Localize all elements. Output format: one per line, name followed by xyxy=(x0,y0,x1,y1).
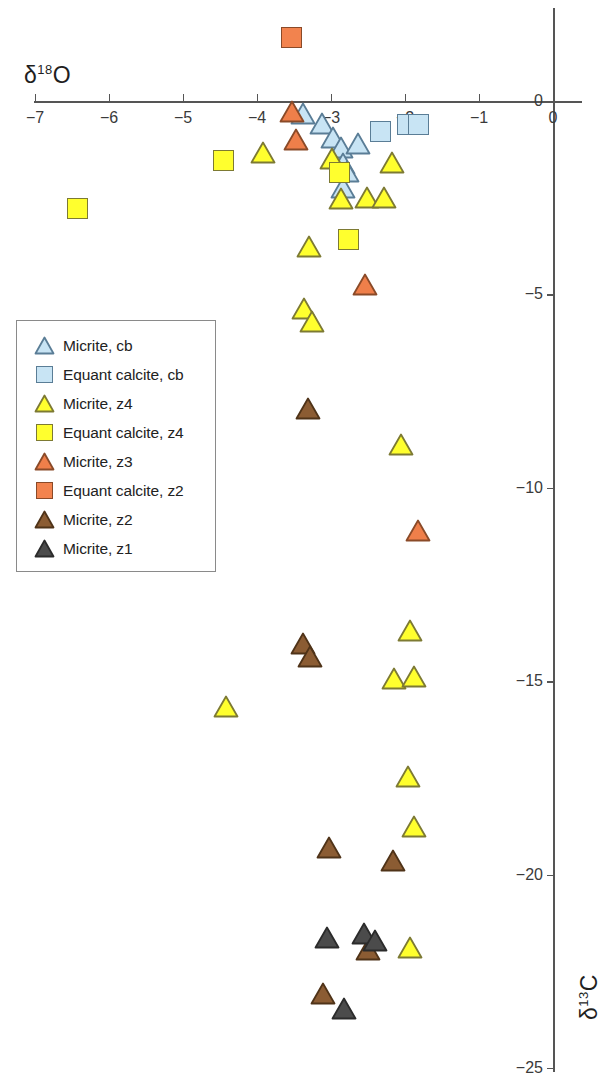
x-tick-mark xyxy=(257,94,258,102)
legend-symbol-square-icon xyxy=(31,482,57,499)
y-tick-label: −5 xyxy=(497,285,543,303)
y-axis-title-element: C xyxy=(576,974,602,991)
data-point-triangle xyxy=(295,397,321,420)
y-axis-title-superscript: 13 xyxy=(576,991,591,1006)
data-point-triangle xyxy=(395,765,421,788)
x-tick-label: 0 xyxy=(549,109,558,127)
data-point-triangle xyxy=(362,929,388,952)
legend-item-micrite-z1[interactable]: Micrite, z1 xyxy=(31,534,215,563)
data-point-triangle xyxy=(314,926,340,949)
data-point-square xyxy=(370,121,391,142)
legend-square-glyph xyxy=(36,482,53,499)
legend-square-glyph xyxy=(36,366,53,383)
data-point-triangle xyxy=(401,815,427,838)
data-point-triangle xyxy=(405,519,431,542)
data-point-triangle xyxy=(379,151,405,174)
x-tick-mark xyxy=(35,94,36,102)
data-point-triangle xyxy=(213,695,239,718)
legend-item-micrite-z3[interactable]: Micrite, z3 xyxy=(31,447,215,476)
legend-label: Equant calcite, z2 xyxy=(63,482,184,500)
y-tick-label: −20 xyxy=(497,866,543,884)
legend-item-equant-cb[interactable]: Equant calcite, cb xyxy=(31,360,215,389)
legend-item-equant-z2[interactable]: Equant calcite, z2 xyxy=(31,476,215,505)
x-tick-mark xyxy=(331,94,332,102)
y-tick-label: −15 xyxy=(497,672,543,690)
x-tick-label: −1 xyxy=(470,109,488,127)
legend-label: Micrite, z1 xyxy=(63,540,133,558)
legend-label: Micrite, cb xyxy=(63,337,133,355)
data-point-triangle xyxy=(296,235,322,258)
data-point-triangle xyxy=(352,273,378,296)
legend-symbol-triangle-icon xyxy=(31,539,57,558)
x-tick-label: −4 xyxy=(248,109,266,127)
data-point-square xyxy=(281,27,302,48)
legend-symbol-square-icon xyxy=(31,424,57,441)
y-tick-mark xyxy=(547,488,554,489)
y-axis-title-delta: δ xyxy=(576,1007,602,1020)
y-axis-title: δ13C xyxy=(576,974,602,1020)
legend: Micrite, cbEquant calcite, cbMicrite, z4… xyxy=(16,320,216,572)
legend-square-glyph xyxy=(36,424,53,441)
data-point-square xyxy=(329,162,350,183)
data-point-triangle xyxy=(331,997,357,1020)
legend-symbol-triangle-icon xyxy=(31,510,57,529)
legend-item-micrite-z2[interactable]: Micrite, z2 xyxy=(31,505,215,534)
y-tick-mark xyxy=(547,681,554,682)
legend-symbol-triangle-icon xyxy=(31,452,57,471)
data-point-triangle xyxy=(401,665,427,688)
x-tick-label: −5 xyxy=(174,109,192,127)
data-point-triangle xyxy=(299,310,325,333)
data-point-triangle xyxy=(283,128,309,151)
x-axis-title: δ18O xyxy=(24,62,71,89)
data-point-square xyxy=(338,229,359,250)
y-tick-mark xyxy=(547,875,554,876)
data-point-triangle xyxy=(380,849,406,872)
data-point-square xyxy=(67,198,88,219)
data-point-triangle xyxy=(250,141,276,164)
y-tick-label: 0 xyxy=(497,92,543,110)
data-point-triangle xyxy=(371,186,397,209)
data-point-triangle xyxy=(328,187,354,210)
x-tick-mark xyxy=(405,94,406,102)
legend-label: Equant calcite, z4 xyxy=(63,424,184,442)
x-tick-mark xyxy=(183,94,184,102)
y-tick-mark xyxy=(547,294,554,295)
data-point-square xyxy=(408,114,429,135)
legend-symbol-triangle-icon xyxy=(31,394,57,413)
legend-label: Equant calcite, cb xyxy=(63,366,184,384)
legend-item-micrite-cb[interactable]: Micrite, cb xyxy=(31,331,215,360)
legend-label: Micrite, z2 xyxy=(63,511,133,529)
x-tick-mark xyxy=(479,94,480,102)
legend-item-equant-z4[interactable]: Equant calcite, z4 xyxy=(31,418,215,447)
data-point-triangle xyxy=(279,100,305,123)
x-axis-title-superscript: 18 xyxy=(37,62,52,77)
x-axis-title-element: O xyxy=(53,62,71,88)
y-tick-label: −25 xyxy=(497,1059,543,1077)
legend-label: Micrite, z3 xyxy=(63,453,133,471)
data-point-triangle xyxy=(316,836,342,859)
data-point-triangle xyxy=(397,936,423,959)
x-tick-mark xyxy=(109,94,110,102)
legend-symbol-square-icon xyxy=(31,366,57,383)
data-point-triangle xyxy=(397,619,423,642)
x-axis-title-delta: δ xyxy=(24,62,37,88)
data-point-triangle xyxy=(297,645,323,668)
x-tick-label: −7 xyxy=(26,109,44,127)
data-point-square xyxy=(213,150,234,171)
x-tick-label: −6 xyxy=(100,109,118,127)
legend-symbol-triangle-icon xyxy=(31,336,57,355)
y-axis-line xyxy=(553,8,555,1072)
y-tick-mark xyxy=(547,1068,554,1069)
data-point-triangle xyxy=(388,433,414,456)
y-tick-label: −10 xyxy=(497,479,543,497)
legend-item-micrite-z4[interactable]: Micrite, z4 xyxy=(31,389,215,418)
legend-label: Micrite, z4 xyxy=(63,395,133,413)
